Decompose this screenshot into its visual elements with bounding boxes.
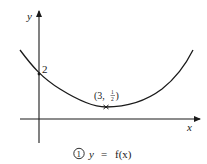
svg-text:): )	[116, 90, 119, 102]
svg-text:f(x): f(x)	[115, 148, 132, 161]
caption: 1 y = f(x)	[74, 148, 132, 161]
svg-text:(3,: (3,	[94, 90, 105, 102]
curve-f	[20, 50, 193, 107]
svg-text:1: 1	[111, 89, 114, 95]
graph: y x 2 (3, 1 2 ) 1 y = f(x)	[0, 0, 207, 164]
svg-text:2: 2	[111, 96, 114, 102]
y-intercept-point	[38, 73, 41, 76]
y-axis-label: y	[26, 10, 32, 22]
svg-text:y: y	[88, 148, 94, 160]
svg-text:1: 1	[77, 149, 82, 159]
svg-text:=: =	[101, 148, 107, 160]
y-intercept-label: 2	[42, 63, 48, 75]
x-axis-label: x	[186, 121, 192, 133]
vertex-label: (3, 1 2 )	[94, 89, 119, 102]
